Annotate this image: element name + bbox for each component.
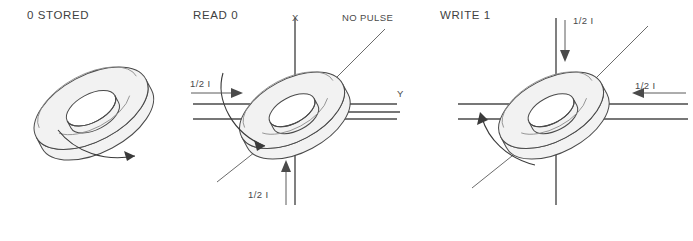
current-arrow-horizontal <box>632 88 686 98</box>
panel-zero-stored: 0 STORED <box>0 0 185 241</box>
core-memory-diagram: 0 STORED READ 0 X Y NO PULSE <box>0 0 693 241</box>
core-drawing-zero-stored <box>0 0 185 241</box>
core-drawing-write-one <box>430 0 693 241</box>
current-arrow-vertical <box>560 20 570 62</box>
core-drawing-read-zero <box>185 0 430 241</box>
current-arrow-y <box>281 160 291 205</box>
panel-write-one: WRITE 1 1/2 I 1/2 I <box>430 0 693 241</box>
panel-read-zero: READ 0 X Y NO PULSE 1/2 I 1/2 I <box>185 0 430 241</box>
current-arrow-x <box>191 88 243 98</box>
